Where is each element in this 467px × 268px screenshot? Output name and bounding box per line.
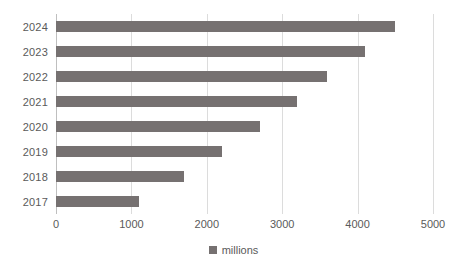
value-axis-label: 1000 xyxy=(119,218,143,230)
category-label: 2020 xyxy=(8,114,52,139)
category-label: 2018 xyxy=(8,164,52,189)
bar-slot xyxy=(56,39,433,64)
category-label: 2024 xyxy=(8,14,52,39)
category-label: 2017 xyxy=(8,189,52,214)
value-axis-label: 5000 xyxy=(421,218,445,230)
value-axis-label: 4000 xyxy=(345,218,369,230)
bar-slot xyxy=(56,189,433,214)
category-label: 2022 xyxy=(8,64,52,89)
bar[interactable] xyxy=(56,146,222,157)
chart-legend: millions xyxy=(0,244,467,256)
bar-slot xyxy=(56,114,433,139)
value-axis-label: 3000 xyxy=(270,218,294,230)
value-axis-label: 0 xyxy=(53,218,59,230)
bar-slot xyxy=(56,89,433,114)
category-axis: 20242023202220212020201920182017 xyxy=(8,14,52,214)
value-axis: 010002000300040005000 xyxy=(56,218,433,236)
bar[interactable] xyxy=(56,46,365,57)
bar[interactable] xyxy=(56,96,297,107)
bar-slot xyxy=(56,164,433,189)
bar-series-millions xyxy=(56,14,433,214)
value-axis-label: 2000 xyxy=(195,218,219,230)
legend-swatch-millions xyxy=(209,246,217,254)
bar[interactable] xyxy=(56,71,327,82)
plot-area xyxy=(56,14,433,214)
bar[interactable] xyxy=(56,121,260,132)
category-label: 2019 xyxy=(8,139,52,164)
legend-label-millions: millions xyxy=(222,244,259,256)
category-label: 2021 xyxy=(8,89,52,114)
bar-slot xyxy=(56,64,433,89)
bar-chart: 20242023202220212020201920182017 0100020… xyxy=(0,0,467,268)
bar-slot xyxy=(56,139,433,164)
bar[interactable] xyxy=(56,21,395,32)
bar-slot xyxy=(56,14,433,39)
bar[interactable] xyxy=(56,196,139,207)
category-label: 2023 xyxy=(8,39,52,64)
chart-plot-wrapper: 20242023202220212020201920182017 0100020… xyxy=(0,0,467,268)
gridline xyxy=(433,14,434,214)
bar[interactable] xyxy=(56,171,184,182)
